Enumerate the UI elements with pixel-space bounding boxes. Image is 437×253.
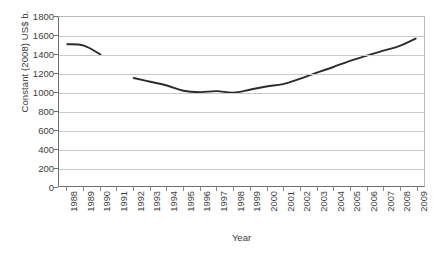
x-tick-label: 2002 bbox=[303, 191, 312, 212]
x-tick-mark bbox=[216, 187, 217, 191]
x-tick-mark bbox=[417, 187, 418, 191]
series-path bbox=[134, 39, 416, 93]
x-tick-label: 2005 bbox=[353, 191, 362, 212]
gridline bbox=[59, 131, 424, 132]
x-tick-label: 2006 bbox=[370, 191, 379, 212]
x-tick-mark bbox=[100, 187, 101, 191]
x-tick-mark bbox=[333, 187, 334, 191]
x-tick-label: 2009 bbox=[420, 191, 429, 212]
y-tick-mark bbox=[54, 35, 58, 36]
y-axis-tick-labels: 180016001400120010008006004002000 bbox=[22, 16, 54, 187]
gridline bbox=[59, 112, 424, 113]
y-tick-label: 400 bbox=[22, 144, 54, 155]
y-tick-mark bbox=[54, 73, 58, 74]
x-tick-label: 1997 bbox=[220, 191, 229, 212]
gridline bbox=[59, 36, 424, 37]
y-tick-label: 800 bbox=[22, 106, 54, 117]
y-tick-label: 0 bbox=[22, 182, 54, 193]
data-series-line bbox=[59, 17, 424, 186]
x-tick-mark bbox=[250, 187, 251, 191]
x-tick-label: 2007 bbox=[387, 191, 396, 212]
y-tick-mark bbox=[54, 16, 58, 17]
x-tick-label: 2000 bbox=[270, 191, 279, 212]
x-tick-mark bbox=[66, 187, 67, 191]
x-tick-label: 1994 bbox=[170, 191, 179, 212]
x-tick-label: 1999 bbox=[253, 191, 262, 212]
clipped-chart-title bbox=[150, 0, 290, 3]
gridline bbox=[59, 93, 424, 94]
x-axis-tick-labels: 1988198919901991199219931994199519961997… bbox=[58, 191, 425, 229]
gridline bbox=[59, 150, 424, 151]
x-tick-label: 1996 bbox=[203, 191, 212, 212]
plot-area bbox=[58, 16, 425, 187]
y-tick-mark bbox=[54, 187, 58, 188]
x-tick-label: 1992 bbox=[137, 191, 146, 212]
x-tick-label: 1998 bbox=[237, 191, 246, 212]
x-tick-mark bbox=[166, 187, 167, 191]
line-chart: Constant (2008) US$ b. 18001600140012001… bbox=[0, 0, 437, 253]
y-tick-label: 1200 bbox=[22, 68, 54, 79]
gridline bbox=[59, 74, 424, 75]
x-tick-mark bbox=[300, 187, 301, 191]
x-tick-mark bbox=[150, 187, 151, 191]
x-axis-title: Year bbox=[58, 232, 425, 243]
x-tick-mark bbox=[383, 187, 384, 191]
gridline bbox=[59, 169, 424, 170]
x-tick-label: 1988 bbox=[70, 191, 79, 212]
x-tick-mark bbox=[83, 187, 84, 191]
x-tick-mark bbox=[133, 187, 134, 191]
x-tick-mark bbox=[367, 187, 368, 191]
y-tick-label: 600 bbox=[22, 125, 54, 136]
series-path bbox=[67, 44, 100, 54]
x-tick-label: 1989 bbox=[87, 191, 96, 212]
y-tick-mark bbox=[54, 54, 58, 55]
gridline bbox=[59, 55, 424, 56]
y-tick-label: 1400 bbox=[22, 49, 54, 60]
x-tick-mark bbox=[116, 187, 117, 191]
x-tick-mark bbox=[267, 187, 268, 191]
x-tick-label: 1991 bbox=[120, 191, 129, 212]
y-tick-mark bbox=[54, 149, 58, 150]
y-tick-label: 1000 bbox=[22, 87, 54, 98]
x-tick-mark bbox=[317, 187, 318, 191]
x-tick-label: 2008 bbox=[403, 191, 412, 212]
x-tick-label: 1993 bbox=[153, 191, 162, 212]
x-tick-label: 2001 bbox=[287, 191, 296, 212]
y-tick-label: 1600 bbox=[22, 30, 54, 41]
x-tick-label: 1990 bbox=[103, 191, 112, 212]
x-tick-label: 2003 bbox=[320, 191, 329, 212]
x-tick-mark bbox=[350, 187, 351, 191]
y-tick-mark bbox=[54, 92, 58, 93]
x-tick-mark bbox=[400, 187, 401, 191]
x-tick-label: 1995 bbox=[187, 191, 196, 212]
y-tick-label: 200 bbox=[22, 163, 54, 174]
x-tick-mark bbox=[233, 187, 234, 191]
x-tick-mark bbox=[283, 187, 284, 191]
x-tick-mark bbox=[183, 187, 184, 191]
y-tick-mark bbox=[54, 111, 58, 112]
x-tick-label: 2004 bbox=[337, 191, 346, 212]
y-tick-mark bbox=[54, 168, 58, 169]
y-tick-label: 1800 bbox=[22, 11, 54, 22]
x-tick-mark bbox=[200, 187, 201, 191]
y-tick-mark bbox=[54, 130, 58, 131]
